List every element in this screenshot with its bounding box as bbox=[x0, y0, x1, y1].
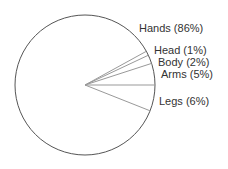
label-legs: Legs (6%) bbox=[159, 95, 209, 107]
label-head: Head (1%) bbox=[154, 44, 207, 56]
label-arms: Arms (5%) bbox=[161, 68, 213, 80]
label-hands: Hands (86%) bbox=[139, 22, 203, 34]
label-body: Body (2%) bbox=[158, 56, 209, 68]
